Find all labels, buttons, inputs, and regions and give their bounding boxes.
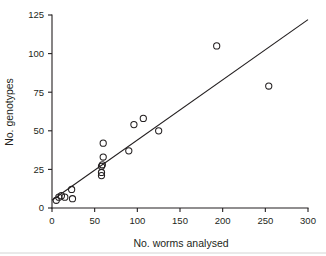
x-axis: 050100150200250300 [49,208,316,226]
data-point [266,83,272,89]
y-tick-label: 75 [33,87,44,98]
x-tick-label: 200 [215,215,231,226]
x-tick-label: 0 [49,215,54,226]
data-point [69,196,75,202]
y-axis-title: No. genotypes [3,78,15,146]
y-tick-label: 0 [39,202,44,213]
x-tick-label: 100 [129,215,145,226]
y-tick-label: 100 [28,48,44,59]
regression-line-path [52,20,308,201]
y-tick-label: 25 [33,164,44,175]
data-point [156,128,162,134]
data-point [126,148,132,154]
x-axis-title: No. worms analysed [133,237,228,249]
x-tick-label: 50 [89,215,100,226]
data-point [69,186,75,192]
y-axis: 0255075100125 [28,9,52,213]
y-tick-label: 125 [28,9,44,20]
x-tick-label: 150 [172,215,188,226]
y-tick-label: 50 [33,125,44,136]
data-point [100,154,106,160]
data-point [131,122,137,128]
scatter-plot-figure: 0255075100125 050100150200250300 No. wor… [0,0,326,256]
data-point [214,43,220,49]
regression-line [52,20,308,201]
chart-canvas: 0255075100125 050100150200250300 No. wor… [0,0,326,256]
data-point [140,115,146,121]
x-tick-label: 300 [300,215,316,226]
data-points [53,43,272,204]
data-point [100,140,106,146]
x-tick-label: 250 [257,215,273,226]
